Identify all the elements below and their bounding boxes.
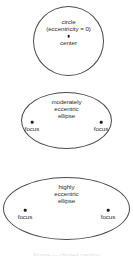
shape-circle: circle (eccentricity = 0) center [33,6,104,76]
moderate-label-line-3: ellipse [51,113,81,120]
circle-label: circle (eccentricity = 0) [46,19,91,33]
high-focus-right-label: focus [101,213,116,220]
high-label-line-3: ellipse [54,198,78,205]
center-point-dot [67,35,70,38]
moderate-focus-right-dot [100,121,103,124]
circle-label-line-2: (eccentricity = 0) [46,26,91,33]
moderate-ellipse-label: moderately eccentric ellipse [51,99,81,120]
high-focus-left-label: focus [18,213,33,220]
shape-moderate-ellipse: moderately eccentric ellipse focus focus [21,92,112,149]
caption-remnant: Figure — clipped caption [0,250,133,256]
high-focus-right-dot [107,209,110,212]
center-point-label: center [60,39,77,46]
high-focus-left-dot [24,209,27,212]
moderate-focus-left-dot [31,121,34,124]
shape-high-ellipse: highly eccentric ellipse focus focus [3,177,130,240]
moderate-focus-right-label: focus [94,125,109,132]
eccentricity-diagram: circle (eccentricity = 0) center moderat… [0,0,133,256]
high-ellipse-label: highly eccentric ellipse [54,184,78,205]
moderate-focus-left-label: focus [25,125,40,132]
